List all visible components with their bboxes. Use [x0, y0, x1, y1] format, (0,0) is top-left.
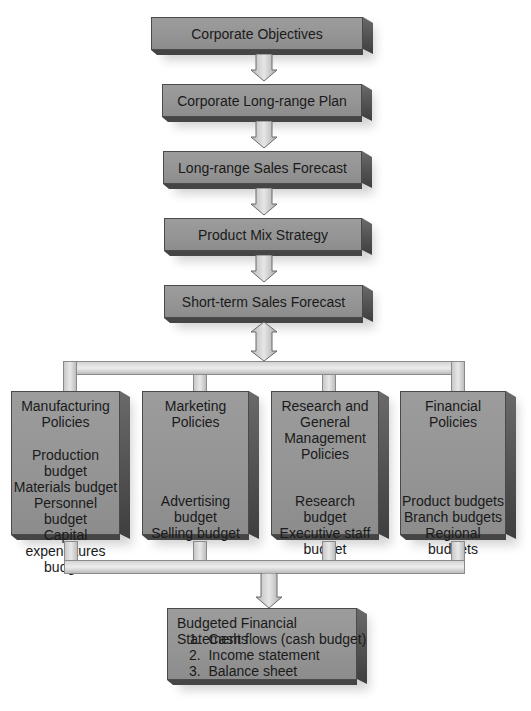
- connector-drop: [193, 374, 207, 392]
- top-connector-bar: [63, 361, 465, 375]
- bottom-connector-bar: [64, 560, 465, 574]
- box-side: [506, 391, 516, 539]
- arrow-down-icon: [255, 573, 283, 609]
- box-research-general-management-policies: Research and General Management Policies…: [271, 391, 379, 535]
- box-bottom: [167, 680, 357, 685]
- box-side: [362, 218, 372, 255]
- box-label: Corporate Long-range Plan: [163, 85, 361, 116]
- box-side: [363, 17, 373, 54]
- box-manufacturing-policies: Manufacturing Policies Production budget…: [11, 391, 120, 535]
- arrow-down-icon: [250, 188, 278, 216]
- box-long-range-sales-forecast: Long-range Sales Forecast: [163, 151, 362, 184]
- arrow-down-icon: [250, 121, 278, 149]
- box-budgeted-financial-statements: Budgeted Financial Statements 1. Cash fl…: [167, 608, 357, 680]
- box-corporate-long-range-plan: Corporate Long-range Plan: [162, 84, 362, 117]
- arrow-down-icon: [250, 54, 278, 82]
- box-corporate-objectives: Corporate Objectives: [151, 17, 363, 50]
- policy-title: Manufacturing Policies: [12, 392, 119, 430]
- policy-title: Marketing Policies: [143, 392, 248, 430]
- box-product-mix-strategy: Product Mix Strategy: [164, 218, 362, 251]
- box-label: Corporate Objectives: [152, 18, 362, 49]
- box-side: [362, 151, 372, 188]
- final-item: 1. Cash flows (cash budget): [189, 631, 366, 647]
- box-side: [249, 391, 259, 539]
- box-financial-policies: Financial Policies Product budgets Branc…: [400, 391, 506, 535]
- policy-budgets: Advertising budget Selling budget: [143, 493, 248, 541]
- connector-rise: [322, 541, 336, 561]
- connector-rise: [193, 541, 207, 561]
- box-side: [120, 391, 130, 539]
- box-label: Short-term Sales Forecast: [165, 286, 362, 317]
- connector-drop: [63, 361, 77, 392]
- final-item: 3. Balance sheet: [189, 663, 297, 679]
- box-label: Product Mix Strategy: [165, 219, 361, 250]
- arrow-down-icon: [250, 255, 278, 283]
- double-arrow-icon: [250, 322, 278, 362]
- policy-title: Research and General Management Policies: [272, 392, 378, 462]
- connector-drop: [451, 361, 465, 392]
- box-side: [379, 391, 389, 539]
- final-item: 2. Income statement: [189, 647, 320, 663]
- connector-drop: [322, 374, 336, 392]
- box-label: Long-range Sales Forecast: [164, 152, 361, 183]
- box-short-term-sales-forecast: Short-term Sales Forecast: [164, 285, 363, 318]
- policy-title: Financial Policies: [401, 392, 505, 430]
- box-side: [362, 84, 372, 121]
- box-marketing-policies: Marketing Policies Advertising budget Se…: [142, 391, 249, 535]
- box-side: [363, 285, 373, 322]
